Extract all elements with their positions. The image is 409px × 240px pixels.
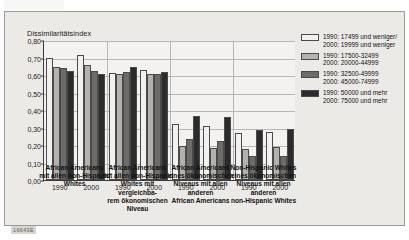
bars [139,41,171,180]
group-caption: African Americanseines ökonomischenNivea… [165,164,236,205]
bar-subgroup: 1990 [44,41,76,180]
legend-label-line: 2000: 45000-74999 [323,78,378,86]
bar [46,58,53,180]
legend-label: 1990: 32500-499992000: 45000-74999 [323,70,378,85]
y-tick-label: 0,70 [27,55,41,62]
y-tick-label: 0,60 [27,73,41,80]
bar [77,55,84,180]
legend-item[interactable]: 1990: 17500-324992000: 20000-44999 [301,52,409,67]
bar-subgroup: 1990 [233,41,265,180]
group-caption-line: eines ökonomischen [165,172,236,180]
plot-area: 0,000,100,200,300,400,500,600,700,80 199… [43,41,295,181]
bars [265,41,297,180]
group-caption-line: Whites mit vergleichba- [102,180,173,196]
legend-swatch [301,71,319,78]
bars [76,41,108,180]
group-caption-line: Whites [39,180,110,188]
group-caption-line: Non-Hispanic Whites [228,164,299,172]
group-caption-line: African Americans [102,164,173,172]
group-caption: African Americansmit allen non-HispanicW… [102,164,173,213]
legend-label-line: 1990: 50000 und mehr [323,89,387,97]
legend-label: 1990: 17500-324992000: 20000-44999 [323,52,378,67]
group-caption-line: African Americans [39,164,110,172]
group-caption-line: mit allen non-Hispanic [39,172,110,180]
legend-label: 1990: 17499 und weniger/2000: 19999 und … [323,33,397,48]
bar-subgroup: 2000 [265,41,297,180]
figure-code: 16643E [11,226,36,234]
bar [84,65,91,180]
bars [44,41,76,180]
y-tick-label: 0,80 [27,38,41,45]
legend-label-line: 2000: 19999 und weniger [323,41,397,49]
bars [170,41,202,180]
bar-subgroup: 2000 [76,41,108,180]
bar-group: 19902000 [44,41,108,180]
scan-artifact [4,0,64,10]
bars [202,41,234,180]
bar-subgroup: 1990 [170,41,202,180]
group-caption-line: non-Hispanic Whites [228,197,299,205]
y-tick-label: 0,50 [27,90,41,97]
group-caption-line: Niveaus mit allen anderen [228,180,299,196]
legend-item[interactable]: 1990: 17499 und weniger/2000: 19999 und … [301,33,409,48]
bar-group: 19902000 [233,41,296,180]
group-caption-line: Niveaus mit allen anderen [165,180,236,196]
group-caption-line: rem ökonomischen Niveau [102,197,173,213]
y-tick-label: 0,40 [27,108,41,115]
legend-item[interactable]: 1990: 50000 und mehr2000: 75000 und mehr [301,89,409,104]
legend-label-line: 1990: 32500-49999 [323,70,378,78]
legend-label-line: 1990: 17500-32499 [323,52,378,60]
legend-swatch [301,53,319,60]
chart-figure: Dissimilaritätsindex 0,000,100,200,300,4… [0,0,409,240]
legend-swatch [301,34,319,41]
group-caption-line: African Americans [165,164,236,172]
group-caption-line: African Americans [165,197,236,205]
bar-subgroup: 2000 [139,41,171,180]
group-caption-line: mit allen non-Hispanic [102,172,173,180]
legend-swatch [301,90,319,97]
legend-item[interactable]: 1990: 32500-499992000: 45000-74999 [301,70,409,85]
bar-subgroup: 2000 [202,41,234,180]
legend-label-line: 1990: 17499 und weniger/ [323,33,397,41]
legend-label-line: 2000: 75000 und mehr [323,97,387,105]
bar-group: 19902000 [170,41,234,180]
legend-label-line: 2000: 20000-44999 [323,59,378,67]
legend-label: 1990: 50000 und mehr2000: 75000 und mehr [323,89,387,104]
bar-group: 19902000 [107,41,171,180]
bars [107,41,139,180]
chart-panel: Dissimilaritätsindex 0,000,100,200,300,4… [4,11,405,226]
bar-subgroup: 1990 [107,41,139,180]
y-tick-label: 0,30 [27,125,41,132]
bars [233,41,265,180]
chart-legend: 1990: 17499 und weniger/2000: 19999 und … [301,33,409,108]
group-caption: Non-Hispanic Whiteseines ökonomischenNiv… [228,164,299,205]
y-tick-label: 0,20 [27,143,41,150]
group-caption: African Americansmit allen non-HispanicW… [39,164,110,189]
group-caption-line: eines ökonomischen [228,172,299,180]
